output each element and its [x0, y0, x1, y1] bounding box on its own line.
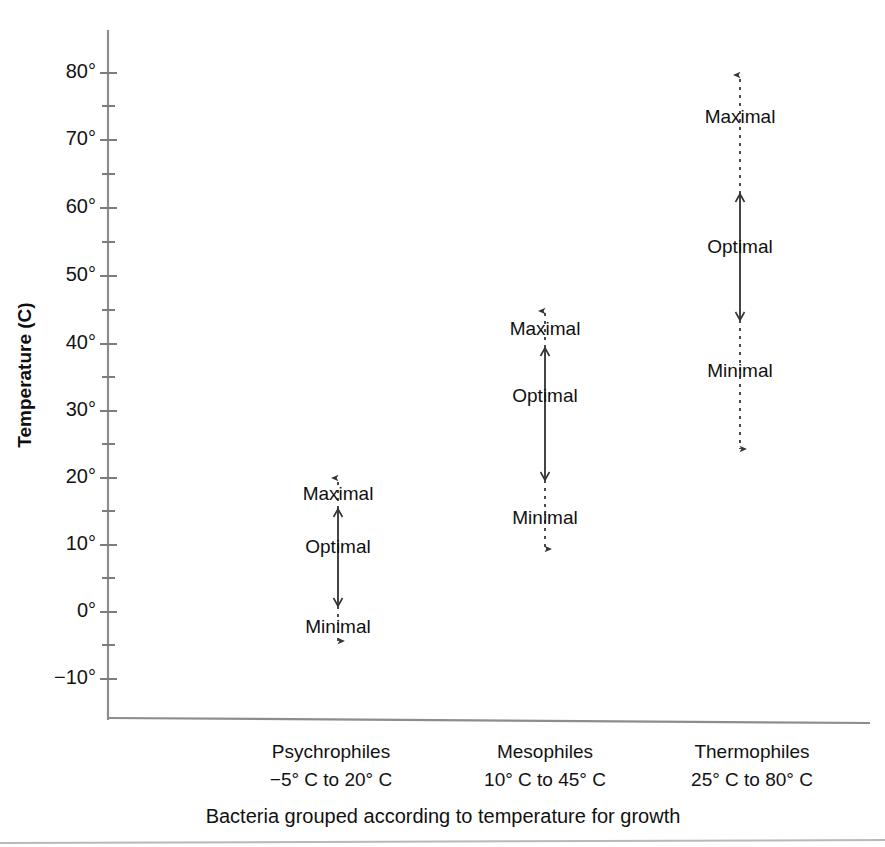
y-axis: 80° 70° 60° 50° 40° 30° 20° 10° 0° −10° … [14, 30, 117, 720]
temperature-growth-figure: 80° 70° 60° 50° 40° 30° 20° 10° 0° −10° … [0, 0, 885, 847]
x-axis [108, 718, 870, 723]
series-psychrophiles[interactable]: Maximal Optimal Minimal [303, 478, 374, 641]
y-tick-label-10: 10° [66, 532, 96, 554]
series-mesophiles[interactable]: Maximal Optimal Minimal [510, 311, 581, 549]
category-range-thermophiles: 25° C to 80° C [691, 769, 813, 790]
mesophiles-maximal-label: Maximal [510, 318, 581, 339]
category-label-psychrophiles: Psychrophiles [272, 741, 390, 762]
category-range-mesophiles: 10° C to 45° C [484, 769, 606, 790]
psychrophiles-optimal-label: Optimal [305, 536, 370, 557]
bacteria-temperature-chart: 80° 70° 60° 50° 40° 30° 20° 10° 0° −10° … [0, 0, 885, 847]
x-axis-line [108, 718, 870, 723]
y-tick-label-60: 60° [66, 195, 96, 217]
mesophiles-minimal-label: Minimal [512, 507, 577, 528]
category-labels: Psychrophiles −5° C to 20° C Mesophiles … [270, 741, 813, 790]
thermophiles-maximal-label: Maximal [705, 106, 776, 127]
y-axis-title: Temperature (C) [14, 302, 35, 447]
category-label-mesophiles: Mesophiles [497, 741, 593, 762]
series-thermophiles[interactable]: Maximal Optimal Minimal [705, 75, 776, 449]
thermophiles-optimal-label: Optimal [707, 236, 772, 257]
psychrophiles-minimal-label: Minimal [305, 616, 370, 637]
figure-caption: Bacteria grouped according to temperatur… [206, 805, 681, 827]
bottom-divider [0, 840, 885, 843]
category-range-psychrophiles: −5° C to 20° C [270, 769, 392, 790]
y-tick-label-50: 50° [66, 263, 96, 285]
y-tick-label-70: 70° [66, 127, 96, 149]
mesophiles-optimal-label: Optimal [512, 385, 577, 406]
y-tick-label-20: 20° [66, 465, 96, 487]
category-label-thermophiles: Thermophiles [694, 741, 809, 762]
y-tick-label-80: 80° [66, 60, 96, 82]
y-tick-label-minus10: −10° [54, 666, 96, 688]
psychrophiles-maximal-label: Maximal [303, 483, 374, 504]
y-tick-label-30: 30° [66, 398, 96, 420]
y-tick-label-0: 0° [77, 599, 96, 621]
y-tick-label-40: 40° [66, 331, 96, 353]
thermophiles-minimal-label: Minimal [707, 360, 772, 381]
